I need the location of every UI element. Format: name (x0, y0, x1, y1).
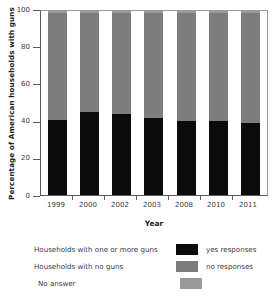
y-tick-mark-0 (33, 196, 40, 197)
y-tick-label-40: 40 (6, 117, 30, 125)
y-tick-mark-100 (33, 10, 40, 11)
x-tick-mark-4 (200, 196, 201, 200)
legend-label-yes-responses: yes responses (206, 245, 256, 254)
bar-2002 (112, 11, 131, 195)
bar-segment-yes (144, 118, 163, 195)
x-tick-mark-0 (72, 196, 73, 200)
bar-2008 (177, 11, 196, 195)
y-tick-mark-40 (33, 122, 40, 123)
bar-segment-yes (48, 120, 67, 195)
bar-segment-yes (112, 114, 131, 195)
bar-segment-no (48, 13, 67, 120)
legend-swatch-yes (176, 244, 198, 255)
bar-segment-yes (241, 123, 260, 195)
chart-legend: Households with one or more guns yes res… (34, 241, 266, 292)
bar-segment-yes (80, 112, 99, 195)
bar-segment-no (80, 13, 99, 112)
bar-2011 (241, 11, 260, 195)
y-tick-label-60: 60 (6, 80, 30, 88)
x-axis-title: Year (40, 219, 268, 228)
x-tick-label-2011: 2011 (228, 201, 268, 209)
bar-2010 (209, 11, 228, 195)
chart-figure: Percentage of American households with g… (0, 0, 272, 298)
bar-segment-no (112, 13, 131, 114)
y-tick-label-0: 0 (6, 192, 30, 200)
bar-2003 (144, 11, 163, 195)
bar-2000 (80, 11, 99, 195)
legend-label-no-answer: No answer (34, 279, 180, 288)
x-tick-mark-2 (136, 196, 137, 200)
legend-label-households-with-guns: Households with one or more guns (34, 245, 176, 254)
y-tick-mark-20 (33, 159, 40, 160)
y-tick-label-20: 20 (6, 154, 30, 162)
bar-segment-yes (177, 121, 196, 195)
bar-1999 (48, 11, 67, 195)
legend-label-households-no-guns: Households with no guns (34, 262, 176, 271)
y-axis-title: Percentage of American households with g… (7, 6, 16, 202)
legend-row-yes: Households with one or more guns yes res… (34, 241, 266, 258)
bar-segment-no (209, 13, 228, 122)
legend-swatch-no (176, 261, 198, 272)
y-tick-label-100: 100 (6, 6, 30, 14)
y-tick-label-80: 80 (6, 43, 30, 51)
bar-segment-yes (209, 121, 228, 195)
legend-row-no-answer: No answer (34, 275, 266, 292)
x-tick-mark-3 (168, 196, 169, 200)
bar-segment-no (144, 13, 163, 118)
bar-segment-no (241, 13, 260, 123)
legend-row-no: Households with no guns no responses (34, 258, 266, 275)
bar-group (41, 11, 267, 195)
legend-swatch-no-answer (180, 278, 202, 289)
y-tick-mark-60 (33, 84, 40, 85)
x-tick-mark-1 (104, 196, 105, 200)
plot-area (40, 10, 268, 196)
y-tick-mark-80 (33, 47, 40, 48)
bar-segment-no (177, 13, 196, 122)
legend-label-no-responses: no responses (206, 262, 253, 271)
x-tick-mark-5 (232, 196, 233, 200)
